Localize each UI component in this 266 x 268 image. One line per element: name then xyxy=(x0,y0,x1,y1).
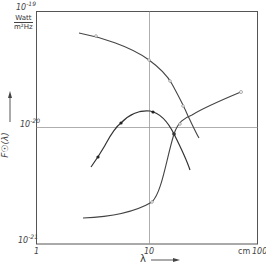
x-axis-arrow-icon xyxy=(173,258,180,262)
x-tick-1: 1 xyxy=(34,247,39,256)
series-curve-c xyxy=(83,92,241,218)
series-curve-b xyxy=(91,111,190,170)
y-tick-top-base: 10 xyxy=(16,3,26,12)
y-axis-arrow-icon xyxy=(8,91,12,98)
y-unit-label: Watt m²Hz xyxy=(14,14,33,31)
y-tick-mid-base: 10 xyxy=(20,120,30,129)
y-unit-denominator: m²Hz xyxy=(14,23,33,31)
y-tick-mid: 10-20 xyxy=(20,120,40,129)
x-unit-label: cm xyxy=(238,247,250,256)
y-tick-top-exp: -19 xyxy=(26,0,36,7)
x-tick-100: 100 xyxy=(252,247,266,256)
y-tick-bottom-base: 10 xyxy=(18,236,28,245)
y-tick-bottom-exp: -21 xyxy=(28,233,38,240)
series-curve-b-markers xyxy=(96,110,175,158)
chart-canvas xyxy=(0,0,266,268)
y-axis-label: F☉(λ) xyxy=(0,132,10,158)
y-tick-bottom: 10-21 xyxy=(18,236,38,245)
y-unit-numerator: Watt xyxy=(14,14,33,23)
y-tick-top: 10-19 xyxy=(16,3,36,12)
series-curve-c-markers xyxy=(151,91,243,204)
series-curve-a-markers xyxy=(95,35,185,108)
y-tick-mid-exp: -20 xyxy=(30,117,40,124)
x-axis-label: λ xyxy=(140,253,146,264)
